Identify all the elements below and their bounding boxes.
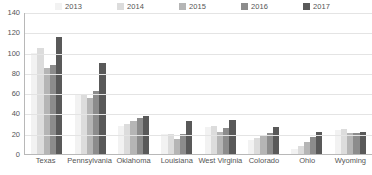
y-tick-label: 0 xyxy=(16,151,20,159)
chart-legend: 20132014201520162017 xyxy=(0,0,372,13)
y-tick-label: 60 xyxy=(12,90,20,98)
gridline xyxy=(25,94,372,95)
gridline xyxy=(25,135,372,136)
legend-swatch-icon xyxy=(55,3,62,10)
y-tick-label: 80 xyxy=(12,70,20,78)
legend-swatch-icon xyxy=(241,3,248,10)
gridline xyxy=(25,13,372,14)
gridline xyxy=(25,74,372,75)
grid-area xyxy=(24,13,372,155)
gridline xyxy=(25,114,372,115)
y-tick-label: 100 xyxy=(7,50,20,58)
bar-2017[interactable] xyxy=(229,120,235,154)
x-tick-label: Oklahoma xyxy=(112,157,155,165)
gridline xyxy=(25,33,372,34)
legend-label: 2014 xyxy=(127,3,144,11)
x-tick-label: West Virginia xyxy=(198,157,242,165)
bar-chart: 20132014201520162017 140120100806040200 … xyxy=(0,0,372,175)
legend-item-2015[interactable]: 2015 xyxy=(179,3,241,11)
y-tick-label: 20 xyxy=(12,131,20,139)
legend-item-2014[interactable]: 2014 xyxy=(117,3,179,11)
x-tick-label: Texas xyxy=(24,157,67,165)
x-tick-label: Ohio xyxy=(286,157,329,165)
legend-item-2017[interactable]: 2017 xyxy=(303,3,365,11)
x-tick-label: Colorado xyxy=(242,157,285,165)
x-axis: TexasPennsylvaniaOklahomaLouisianaWest V… xyxy=(24,157,372,165)
legend-label: 2017 xyxy=(313,3,330,11)
legend-swatch-icon xyxy=(179,3,186,10)
legend-item-2013[interactable]: 2013 xyxy=(55,3,117,11)
legend-swatch-icon xyxy=(117,3,124,10)
bar-2017[interactable] xyxy=(99,63,105,154)
y-axis: 140120100806040200 xyxy=(0,13,22,155)
legend-swatch-icon xyxy=(303,3,310,10)
legend-item-2016[interactable]: 2016 xyxy=(241,3,303,11)
x-tick-label: Wyoming xyxy=(329,157,372,165)
bar-2017[interactable] xyxy=(273,127,279,154)
legend-label: 2015 xyxy=(189,3,206,11)
y-tick-label: 120 xyxy=(7,30,20,38)
bar-2017[interactable] xyxy=(56,37,62,154)
legend-label: 2016 xyxy=(251,3,268,11)
plot-area: 140120100806040200 TexasPennsylvaniaOkla… xyxy=(0,13,372,175)
legend-label: 2013 xyxy=(65,3,82,11)
y-tick-label: 140 xyxy=(7,9,20,17)
x-tick-label: Pennsylvania xyxy=(67,157,112,165)
gridline xyxy=(25,54,372,55)
bar-2017[interactable] xyxy=(186,121,192,154)
x-tick-label: Louisiana xyxy=(155,157,198,165)
y-tick-label: 40 xyxy=(12,111,20,119)
